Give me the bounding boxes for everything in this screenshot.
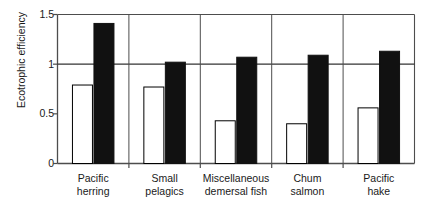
bar-filled-1 (165, 62, 185, 163)
chart-figure: Ecotrophic efficiency 1.5 1 0.5 0 Pacifi… (0, 0, 433, 214)
bar-open-4 (358, 108, 378, 164)
bar-open-0 (72, 85, 92, 163)
x-tick-label-4: Pacifichake (337, 172, 420, 197)
bar-open-1 (144, 87, 164, 163)
bar-filled-4 (380, 51, 400, 163)
bar-filled-0 (94, 23, 114, 163)
x-tick-label-4-line-0: Pacific (337, 172, 420, 185)
bar-filled-3 (308, 55, 328, 163)
bar-open-3 (287, 124, 307, 164)
bar-filled-2 (237, 57, 257, 163)
x-tick-label-4-line-1: hake (337, 185, 420, 198)
bar-open-2 (215, 121, 235, 164)
